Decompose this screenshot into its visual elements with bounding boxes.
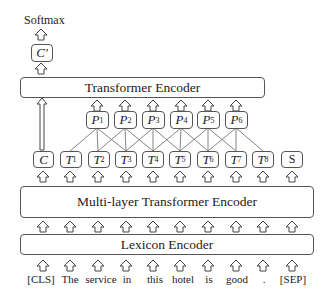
token-node: T8 — [252, 151, 274, 168]
token-node: T1 — [60, 151, 82, 168]
token-node: T7 — [225, 151, 247, 168]
lexicon-encoder-box: Lexicon Encoder — [20, 234, 314, 255]
softmax-label: Softmax — [24, 13, 65, 28]
token-node: T3 — [115, 151, 137, 168]
multi-layer-encoder-label: Multi-layer Transformer Encoder — [77, 194, 257, 210]
phrase-node: P5 — [197, 111, 220, 129]
arrow-up-icon — [35, 63, 47, 74]
input-word: . — [263, 273, 266, 285]
c-prime-label: C′ — [36, 45, 48, 61]
input-word: this — [147, 273, 163, 285]
input-word: in — [123, 273, 132, 285]
sep-output-node: S — [281, 151, 303, 168]
token-node: T6 — [197, 151, 219, 168]
c-prime-node: C′ — [31, 44, 53, 62]
phrase-node: P2 — [114, 111, 137, 129]
phrase-node: P4 — [170, 111, 193, 129]
phrase-node: P6 — [225, 111, 248, 129]
lexicon-encoder-label: Lexicon Encoder — [121, 237, 214, 253]
input-word: is — [205, 273, 212, 285]
token-node: T4 — [142, 151, 164, 168]
input-word: The — [61, 273, 78, 285]
phrase-node: P3 — [142, 111, 165, 129]
cls-output-node: C — [33, 151, 54, 168]
multi-layer-encoder-box: Multi-layer Transformer Encoder — [20, 186, 314, 218]
token-node: T2 — [88, 151, 110, 168]
input-word: [SEP] — [280, 273, 306, 285]
long-arrow-icon — [37, 98, 47, 150]
transformer-encoder-box: Transformer Encoder — [20, 77, 265, 98]
input-word: hotel — [172, 273, 194, 285]
phrase-node: P1 — [86, 111, 109, 129]
transformer-encoder-label: Transformer Encoder — [85, 80, 200, 96]
input-word: service — [85, 273, 116, 285]
input-word: good — [226, 273, 248, 285]
arrow-up-icon — [35, 29, 47, 40]
input-word: [CLS] — [27, 273, 55, 285]
token-node: T5 — [169, 151, 191, 168]
